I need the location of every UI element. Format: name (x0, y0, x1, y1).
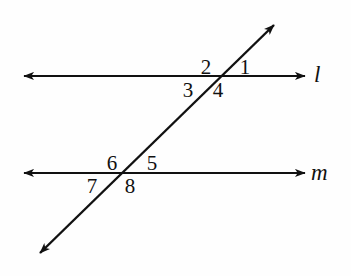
angle-label-6: 6 (101, 153, 123, 174)
angle-label-7: 7 (81, 176, 103, 197)
line-label-l: l (314, 63, 320, 86)
angle-label-5: 5 (141, 153, 163, 174)
angle-label-3: 3 (177, 80, 199, 101)
geometry-canvas (0, 0, 351, 276)
angle-label-4: 4 (207, 80, 229, 101)
angle-label-2: 2 (195, 57, 217, 78)
angle-label-8: 8 (119, 176, 141, 197)
line-label-m: m (311, 161, 328, 184)
angle-label-1: 1 (234, 57, 256, 78)
geometry-figure: 1 2 3 4 5 6 7 8 l m (0, 0, 351, 276)
